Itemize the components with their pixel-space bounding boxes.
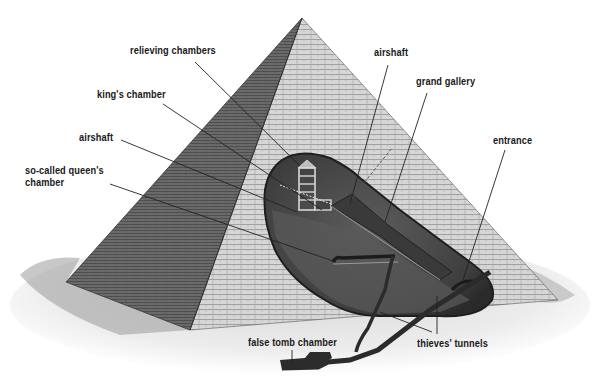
- label-false-tomb-chamber: false tomb chamber: [248, 336, 337, 348]
- label-relieving-chambers: relieving chambers: [130, 44, 216, 56]
- label-queens-chamber: so-called queen's chamber: [25, 164, 122, 188]
- pyramid-illustration: [0, 0, 598, 377]
- label-airshaft-left: airshaft: [79, 131, 113, 143]
- pyramid-diagram: relieving chambers king's chamber airsha…: [0, 0, 598, 377]
- label-entrance: entrance: [493, 134, 532, 146]
- label-thieves-tunnels: thieves' tunnels: [417, 337, 488, 349]
- label-airshaft-right: airshaft: [374, 46, 408, 58]
- label-kings-chamber: king's chamber: [97, 88, 166, 100]
- label-grand-gallery: grand gallery: [416, 75, 475, 87]
